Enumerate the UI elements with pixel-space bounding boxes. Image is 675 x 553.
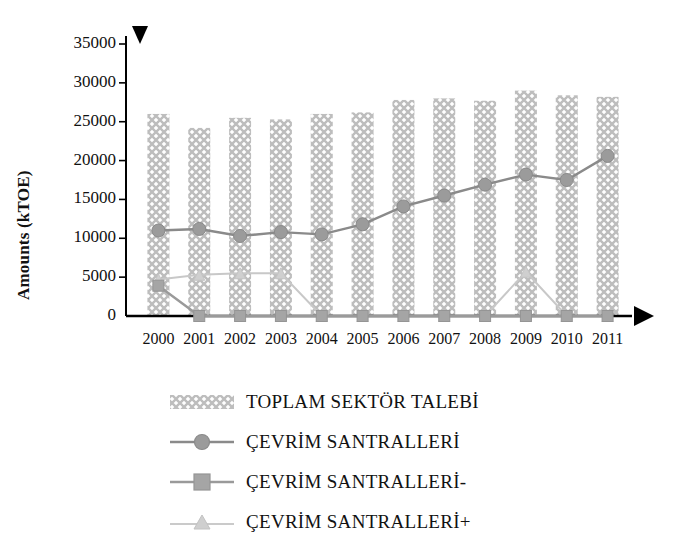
chart-container: Amounts (kTOE) 0500010000150002000025000… (0, 0, 675, 553)
bar (229, 118, 251, 316)
line-series-cevrim-santralleri (152, 149, 614, 242)
line-series-cevrim-santralleri-minus (153, 280, 613, 321)
chart-legend: TOPLAM SEKTÖR TALEBİ ÇEVRİM SANTRALLERİ … (0, 382, 675, 542)
circle-marker-icon (152, 224, 165, 237)
bar (515, 91, 537, 316)
square-marker-icon (439, 311, 450, 322)
square-marker-icon (235, 311, 246, 322)
square-marker-icon (602, 311, 613, 322)
series-line (158, 272, 607, 316)
square-marker-icon (153, 280, 164, 291)
bar (556, 95, 578, 316)
circle-marker-icon (168, 431, 236, 453)
hatched-bar-icon (168, 391, 236, 413)
square-marker-icon (520, 311, 531, 322)
square-marker-icon (168, 471, 236, 493)
series-line (158, 156, 607, 236)
line-series-cevrim-santralleri-plus (153, 266, 613, 321)
bar-series-toplam-sektor-talebi (147, 91, 618, 316)
plot-area (0, 0, 675, 380)
circle-marker-icon (479, 178, 492, 191)
bar (474, 101, 496, 316)
circle-marker-icon (397, 200, 410, 213)
legend-item-toplam-sektor-talebi[interactable]: TOPLAM SEKTÖR TALEBİ (0, 382, 675, 422)
circle-marker-icon (560, 174, 573, 187)
bar (352, 112, 374, 316)
square-marker-icon (561, 311, 572, 322)
circle-marker-icon (356, 218, 369, 231)
circle-marker-icon (315, 228, 328, 241)
bar (433, 98, 455, 316)
legend-item-cevrim-santralleri-plus[interactable]: ÇEVRİM SANTRALLERİ+ (0, 502, 675, 542)
circle-marker-icon (519, 168, 532, 181)
right-triangle-icon (634, 306, 654, 326)
square-marker-icon (316, 311, 327, 322)
circle-marker-icon (601, 149, 614, 162)
legend-label: ÇEVRİM SANTRALLERİ (246, 431, 460, 453)
square-marker-icon (194, 311, 205, 322)
down-triangle-icon (132, 26, 148, 44)
square-marker-icon (275, 311, 286, 322)
circle-marker-icon (274, 226, 287, 239)
square-marker-icon (398, 311, 409, 322)
legend-label: TOPLAM SEKTÖR TALEBİ (246, 391, 479, 413)
series-line (158, 286, 607, 316)
legend-item-cevrim-santralleri-minus[interactable]: ÇEVRİM SANTRALLERİ- (0, 462, 675, 502)
bar (311, 114, 333, 316)
circle-marker-icon (193, 222, 206, 235)
circle-marker-icon (438, 189, 451, 202)
legend-label: ÇEVRİM SANTRALLERİ- (246, 471, 467, 493)
square-marker-icon (480, 311, 491, 322)
circle-marker-icon (234, 229, 247, 242)
square-marker-icon (357, 311, 368, 322)
legend-item-cevrim-santralleri[interactable]: ÇEVRİM SANTRALLERİ (0, 422, 675, 462)
bar (597, 97, 619, 316)
legend-label: ÇEVRİM SANTRALLERİ+ (246, 511, 471, 533)
triangle-marker-icon (168, 511, 236, 533)
bar (270, 119, 292, 316)
